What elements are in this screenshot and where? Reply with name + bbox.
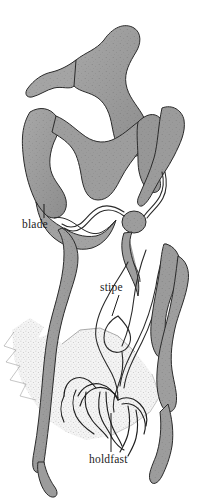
label-blade: blade	[22, 218, 48, 230]
label-holdfast: holdfast	[89, 453, 128, 465]
kelp-illustration: blade stipe holdfast	[0, 0, 197, 502]
kelp-anatomy-figure: blade stipe holdfast	[0, 0, 197, 502]
label-stipe: stipe	[100, 281, 123, 294]
